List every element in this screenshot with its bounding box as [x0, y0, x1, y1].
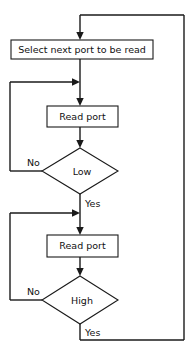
edge-label-low-yes: Yes	[84, 198, 100, 209]
edge-read2-to-high	[76, 257, 83, 276]
decision-high-label: High	[71, 295, 93, 306]
select-port-label: Select next port to be read	[18, 44, 146, 55]
arrowhead-low-no-merge	[72, 78, 80, 85]
flowchart-diagram: Select next port to be read Read port Lo…	[0, 0, 195, 349]
read-port-1-label: Read port	[59, 111, 106, 122]
edge-label-high-no: No	[27, 286, 40, 297]
decision-low-label: Low	[73, 166, 92, 177]
arrowhead-high-no-merge	[72, 209, 80, 216]
arrowhead-into-read2	[76, 227, 83, 235]
edge-label-low-no: No	[27, 157, 40, 168]
arrowhead-into-read1	[76, 98, 83, 106]
node-read-port-2[interactable]: Read port	[47, 235, 118, 257]
arrowhead-into-high	[76, 268, 83, 276]
flowchart-canvas: Select next port to be read Read port Lo…	[0, 0, 195, 349]
arrowhead-into-low	[76, 140, 83, 148]
edge-low-yes-to-read2	[76, 194, 83, 235]
arrowhead-into-select	[76, 32, 83, 40]
node-decision-low[interactable]: Low	[42, 148, 118, 194]
node-read-port-1[interactable]: Read port	[47, 106, 118, 127]
node-decision-high[interactable]: High	[42, 276, 118, 324]
edge-read1-to-low	[76, 127, 83, 148]
edge-label-high-yes: Yes	[84, 327, 100, 338]
node-select-port[interactable]: Select next port to be read	[11, 40, 153, 59]
read-port-2-label: Read port	[59, 240, 106, 251]
